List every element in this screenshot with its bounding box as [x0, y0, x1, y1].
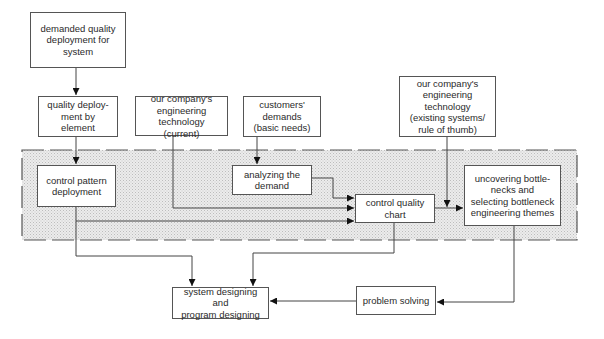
node-label: customers' demands (basic needs)	[253, 99, 310, 134]
node-demanded-quality-deployment: demanded quality deployment for system	[30, 12, 126, 68]
node-label: our company's engineering technology (cu…	[140, 93, 223, 139]
node-label: control pattern deployment	[46, 175, 107, 198]
node-label: analyzing the demand	[244, 169, 300, 192]
node-problem-solving: problem solving	[356, 286, 436, 315]
node-label: uncovering bottle- necks and selecting b…	[471, 173, 554, 219]
node-engineering-technology-existing: our company's engineering technology (ex…	[399, 76, 496, 137]
node-engineering-technology-current: our company's engineering technology (cu…	[135, 96, 228, 136]
node-label: control quality chart	[366, 197, 425, 220]
node-customers-demands: customers' demands (basic needs)	[243, 96, 321, 137]
node-label: system designing and program designing	[177, 286, 264, 321]
node-uncovering-bottlenecks: uncovering bottle- necks and selecting b…	[464, 165, 561, 226]
node-label: problem solving	[363, 295, 430, 307]
node-analyzing-the-demand: analyzing the demand	[232, 165, 312, 195]
node-control-quality-chart: control quality chart	[355, 194, 435, 223]
node-quality-deployment-by-element: quality deploy- ment by element	[38, 96, 118, 137]
node-label: quality deploy- ment by element	[43, 99, 113, 134]
node-control-pattern-deployment: control pattern deployment	[37, 165, 116, 207]
node-label: demanded quality deployment for system	[41, 23, 116, 58]
node-system-designing: system designing and program designing	[172, 287, 269, 319]
node-label: our company's engineering technology (ex…	[410, 78, 486, 136]
